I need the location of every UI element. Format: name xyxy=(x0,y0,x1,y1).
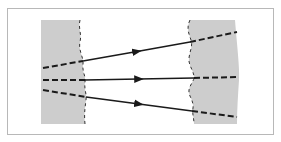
left-slab xyxy=(41,20,86,124)
ray-diagram xyxy=(0,0,281,142)
right-slab xyxy=(188,20,239,124)
